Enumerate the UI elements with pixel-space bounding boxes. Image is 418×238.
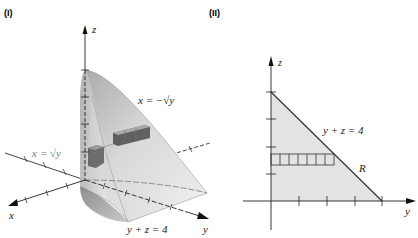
figure-canvas: (I) <box>0 0 418 238</box>
panel-1-label: (I) <box>4 8 13 18</box>
panel-2: (II) z <box>209 8 416 230</box>
p1-x-label: x <box>8 209 14 221</box>
p2-y-label: y <box>404 205 410 217</box>
p2-eq-line: y + z = 4 <box>322 124 364 136</box>
p2-y-arrow-icon <box>406 198 416 204</box>
p1-z-arrow-icon <box>83 25 88 34</box>
p1-x-axis <box>8 180 85 206</box>
p1-y-label: y <box>202 223 208 235</box>
p1-eq-sqrt-y: x= √y <box>31 147 61 159</box>
p1-z-label: z <box>91 23 97 35</box>
p1-y-arrow-icon <box>197 212 209 219</box>
p2-region-label: R <box>358 162 366 174</box>
panel-1: (I) <box>4 8 210 235</box>
p2-z-label: z <box>277 57 282 68</box>
p1-x-arrow-icon <box>8 199 18 206</box>
p1-eq-plane: y + z = 4 <box>126 223 168 235</box>
p2-z-arrow-icon <box>269 56 274 66</box>
p1-eq-neg-sqrt-y: x = −√y <box>137 94 174 106</box>
panel-2-label: (II) <box>209 8 220 18</box>
